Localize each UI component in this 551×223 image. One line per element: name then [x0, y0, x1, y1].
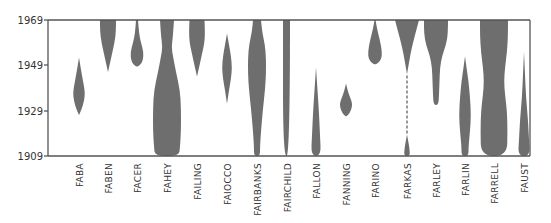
violin-faust: [518, 52, 529, 156]
violin-faben: [100, 20, 116, 72]
x-label-farkas: FARKAS: [403, 163, 413, 199]
violin-fallon: [311, 68, 320, 156]
violin-fairchild: [283, 20, 290, 156]
violin-fahey: [153, 20, 181, 156]
violin-fanning: [340, 83, 352, 116]
y-tick-1909: 1909: [18, 151, 43, 162]
violin-faiocco: [222, 34, 232, 104]
x-label-fairchild: FAIRCHILD: [283, 163, 293, 212]
violin-faba: [73, 57, 84, 115]
x-label-faust: FAUST: [520, 163, 530, 193]
x-axis-labels: FABAFABENFACERFAHEYFAILINGFAIOCCOFAIRBAN…: [75, 162, 530, 215]
x-label-faben: FABEN: [104, 163, 114, 194]
violin-farino: [368, 20, 382, 64]
violin-failing: [189, 20, 205, 77]
x-label-fanning: FANNING: [342, 163, 352, 205]
x-label-farrell: FARRELL: [490, 163, 500, 204]
y-tick-1949: 1949: [18, 60, 43, 71]
violin-farrell: [480, 20, 508, 156]
y-tick-1929: 1929: [18, 106, 43, 117]
x-label-fahey: FAHEY: [163, 163, 173, 193]
y-tick-1969: 1969: [18, 15, 43, 26]
x-label-faba: FABA: [75, 162, 85, 187]
x-label-fallon: FALLON: [312, 163, 322, 199]
violin-farkas: [395, 20, 419, 156]
x-label-farino: FARINO: [371, 163, 381, 198]
y-axis-ticks: 1969 1949 1929 1909: [18, 15, 48, 162]
x-label-farlin: FARLIN: [461, 163, 471, 196]
x-label-faiocco: FAIOCCO: [223, 163, 233, 205]
surname-frequency-chart: 1969 1949 1929 1909 FABAFABENFACERFAHEYF…: [0, 0, 551, 223]
x-label-facer: FACER: [133, 163, 143, 193]
violin-shapes: [73, 20, 529, 156]
x-label-farley: FARLEY: [432, 163, 442, 198]
x-label-fairbanks: FAIRBANKS: [253, 163, 263, 216]
violin-farlin: [459, 56, 471, 156]
violin-farley: [424, 20, 448, 105]
violin-fairbanks: [248, 20, 266, 156]
x-label-failing: FAILING: [193, 163, 203, 200]
violin-facer: [131, 20, 144, 66]
